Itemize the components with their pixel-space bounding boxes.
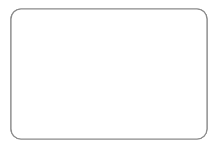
scene-canvas [0,0,222,147]
rounded-rectangle-border-overlay [11,9,207,139]
circles-scene-svg [0,0,222,147]
